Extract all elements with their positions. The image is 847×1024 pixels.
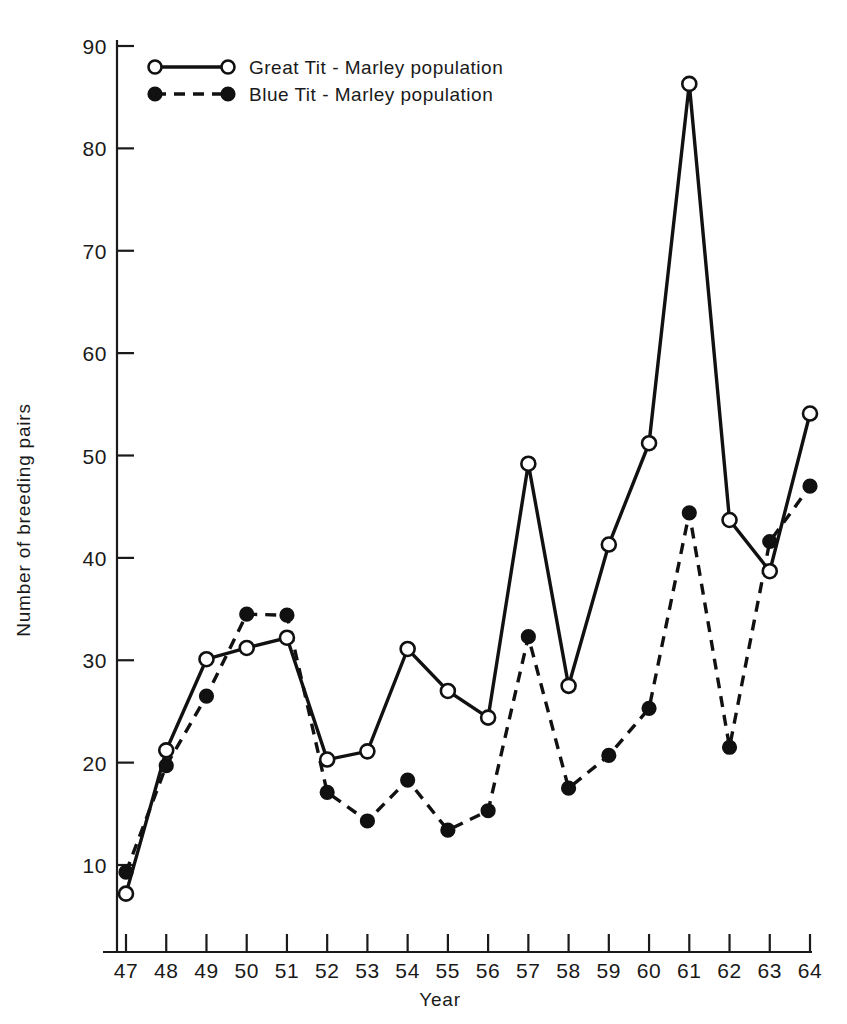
y-tick-label: 80: [82, 137, 107, 160]
data-point-open-circle: [441, 684, 455, 698]
x-tick-label: 54: [395, 959, 420, 982]
x-tick-label: 58: [556, 959, 581, 982]
legend-entry-blue-tit: Blue Tit - Marley population: [149, 84, 494, 105]
data-point-filled-circle: [200, 690, 213, 703]
x-tick-label: 63: [757, 959, 782, 982]
data-point-filled-circle: [804, 480, 817, 493]
x-tick-label: 55: [436, 959, 461, 982]
y-axis-title: Number of breeding pairs: [13, 403, 34, 637]
series-great-tit-line: [126, 84, 810, 894]
x-tick-label: 47: [114, 959, 139, 982]
x-tick-label: 64: [798, 959, 823, 982]
data-point-open-circle: [280, 631, 294, 645]
y-tick-label: 10: [82, 854, 107, 877]
data-point-filled-circle: [643, 702, 656, 715]
legend-open-circle-icon: [149, 61, 162, 74]
x-tick-label: 49: [194, 959, 219, 982]
data-point-filled-circle: [321, 786, 334, 799]
data-point-open-circle: [562, 679, 576, 693]
data-point-open-circle: [682, 77, 696, 91]
data-point-open-circle: [642, 436, 656, 450]
data-point-open-circle: [159, 743, 173, 757]
series-blue-tit-markers: [120, 480, 817, 879]
x-tick-label: 48: [154, 959, 179, 982]
x-tick-label: 60: [637, 959, 662, 982]
data-point-filled-circle: [683, 506, 696, 519]
data-point-open-circle: [360, 744, 374, 758]
y-tick-label: 50: [82, 445, 107, 468]
data-point-open-circle: [119, 887, 133, 901]
data-point-filled-circle: [240, 608, 253, 621]
legend-open-circle-icon: [222, 61, 235, 74]
data-point-open-circle: [199, 652, 213, 666]
data-point-filled-circle: [160, 759, 173, 772]
data-point-open-circle: [240, 641, 254, 655]
data-point-filled-circle: [361, 814, 374, 827]
chart-figure: 102030405060708090 474849505152535455565…: [0, 0, 847, 1024]
data-point-filled-circle: [522, 630, 535, 643]
y-axis-ticks: 102030405060708090: [82, 35, 134, 877]
x-axis-title: Year: [419, 989, 461, 1010]
x-tick-label: 56: [476, 959, 501, 982]
legend-filled-circle-icon: [222, 88, 235, 101]
legend-entry-great-tit: Great Tit - Marley population: [149, 57, 504, 78]
y-tick-label: 60: [82, 342, 107, 365]
x-tick-label: 53: [355, 959, 380, 982]
y-tick-label: 20: [82, 752, 107, 775]
series-great-tit-markers: [119, 77, 817, 901]
x-tick-label: 57: [516, 959, 541, 982]
data-point-open-circle: [723, 513, 737, 527]
data-point-filled-circle: [562, 782, 575, 795]
x-tick-label: 50: [234, 959, 259, 982]
data-point-open-circle: [401, 642, 415, 656]
x-tick-label: 59: [597, 959, 622, 982]
line-chart-canvas: 102030405060708090 474849505152535455565…: [0, 0, 847, 1024]
y-tick-label: 90: [82, 35, 107, 58]
legend-label-blue-tit: Blue Tit - Marley population: [249, 84, 493, 105]
data-point-filled-circle: [401, 774, 414, 787]
data-point-open-circle: [481, 711, 495, 725]
data-point-filled-circle: [763, 535, 776, 548]
data-point-filled-circle: [723, 741, 736, 754]
x-tick-label: 61: [677, 959, 702, 982]
legend-filled-circle-icon: [149, 88, 162, 101]
data-point-filled-circle: [441, 824, 454, 837]
y-tick-label: 40: [82, 547, 107, 570]
series-blue-tit-line: [126, 486, 810, 872]
data-point-filled-circle: [120, 866, 133, 879]
data-point-open-circle: [763, 564, 777, 578]
y-tick-label: 70: [82, 240, 107, 263]
x-tick-label: 51: [275, 959, 300, 982]
y-tick-label: 30: [82, 649, 107, 672]
data-point-open-circle: [803, 407, 817, 421]
x-tick-label: 62: [717, 959, 742, 982]
data-point-filled-circle: [482, 804, 495, 817]
data-point-filled-circle: [602, 749, 615, 762]
data-point-open-circle: [320, 753, 334, 767]
x-tick-label: 52: [315, 959, 340, 982]
data-point-open-circle: [521, 457, 535, 471]
data-point-open-circle: [602, 538, 616, 552]
x-axis-ticks: 474849505152535455565758596061626364: [114, 934, 823, 982]
data-point-filled-circle: [280, 609, 293, 622]
legend-label-great-tit: Great Tit - Marley population: [249, 57, 503, 78]
chart-legend: Great Tit - Marley population Blue Tit -…: [149, 57, 504, 105]
